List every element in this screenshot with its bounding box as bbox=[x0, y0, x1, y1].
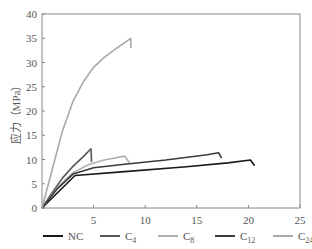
legend-label: C12 bbox=[240, 230, 255, 245]
y-tick-label: 0 bbox=[32, 202, 38, 214]
y-axis-label: 应力（MPa） bbox=[9, 80, 22, 145]
y-tick-label: 20 bbox=[26, 105, 38, 117]
series-line-nc bbox=[42, 160, 255, 208]
legend-item-c4: C4 bbox=[100, 230, 136, 245]
legend-item-c8: C8 bbox=[158, 230, 194, 245]
plot-frame bbox=[42, 14, 300, 208]
y-tick-label: 35 bbox=[26, 32, 38, 44]
y-tick-label: 10 bbox=[26, 154, 38, 166]
x-tick-label: 20 bbox=[243, 214, 255, 226]
legend-item-c12: C12 bbox=[215, 230, 255, 245]
series-lines bbox=[42, 38, 255, 208]
legend-label: NC bbox=[68, 230, 83, 242]
legend-label: C4 bbox=[125, 230, 136, 245]
legend-label: C8 bbox=[183, 230, 194, 245]
y-tick-label: 25 bbox=[26, 81, 38, 93]
stress-strain-chart: 0510152025303540 510152025 应力（MPa） NCC4C… bbox=[0, 0, 312, 249]
x-tick-label: 10 bbox=[140, 214, 152, 226]
legend-label: C24 bbox=[298, 230, 312, 245]
series-line-c8 bbox=[42, 156, 130, 208]
series-line-c24 bbox=[42, 38, 131, 208]
legend: NCC4C8C12C24 bbox=[43, 230, 312, 245]
y-tick-label: 5 bbox=[32, 178, 38, 190]
legend-item-c24: C24 bbox=[273, 230, 312, 245]
x-tick-label: 5 bbox=[91, 214, 97, 226]
y-tick-label: 30 bbox=[26, 57, 38, 69]
x-tick-label: 15 bbox=[191, 214, 203, 226]
x-tick-label: 25 bbox=[295, 214, 307, 226]
legend-item-nc: NC bbox=[43, 230, 83, 242]
y-tick-label: 40 bbox=[26, 8, 38, 20]
y-tick-label: 15 bbox=[26, 129, 38, 141]
